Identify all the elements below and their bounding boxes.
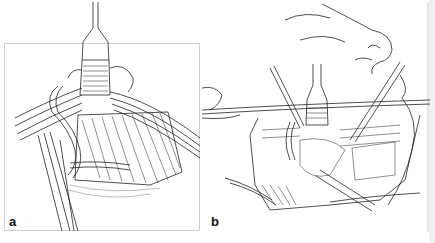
panel-label-a: a	[9, 214, 16, 229]
illustration-artwork	[0, 0, 435, 243]
panel-b-drawing	[202, 4, 430, 211]
surgical-illustration-figure: a b	[0, 0, 435, 243]
panel-label-b: b	[211, 214, 219, 229]
panel-a-drawing	[15, 2, 200, 231]
